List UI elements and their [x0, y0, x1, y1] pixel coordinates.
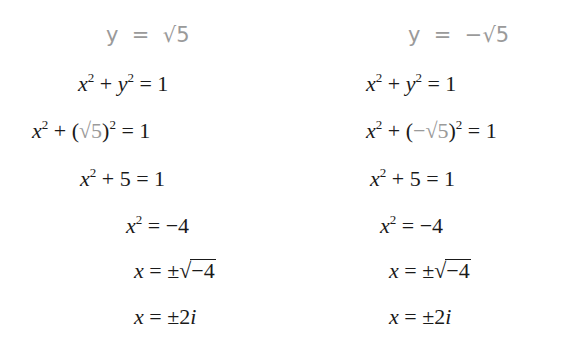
right-line-2: x2 + (−√5)2 = 1	[366, 118, 497, 144]
right-line-6: x = ±2i	[389, 304, 451, 330]
right-line-1: x2 + y2 = 1	[366, 71, 456, 97]
header-variable: y	[106, 23, 118, 47]
sqrt-icon: √	[163, 23, 176, 47]
left-line-2: x2 + (√5)2 = 1	[32, 118, 150, 144]
radicand: −4	[190, 259, 215, 282]
left-line-4: x2 = −4	[126, 213, 189, 239]
right-line-5: x = ±√−4	[389, 258, 471, 284]
left-line-1: x2 + y2 = 1	[78, 71, 168, 97]
right-header-equation: y = −√5	[408, 22, 509, 48]
equals-sign: =	[125, 23, 156, 47]
left-header-equation: y = √5	[106, 22, 191, 48]
minus-sign: −	[465, 23, 483, 47]
right-line-3: x2 + 5 = 1	[370, 166, 455, 192]
radicand: 5	[175, 24, 190, 46]
left-line-3: x2 + 5 = 1	[80, 166, 165, 192]
equals-sign: =	[427, 23, 458, 47]
radicand: 5	[496, 23, 509, 47]
left-line-5: x = ±√−4	[134, 258, 216, 284]
header-variable: y	[408, 23, 420, 47]
sqrt-icon: √	[482, 23, 495, 47]
left-line-6: x = ±2i	[134, 304, 196, 330]
right-line-4: x2 = −4	[380, 213, 443, 239]
radicand: −4	[445, 259, 470, 282]
neg-sqrt-five-highlight: −√5	[413, 118, 448, 143]
sqrt-five-highlight: √5	[79, 118, 102, 143]
